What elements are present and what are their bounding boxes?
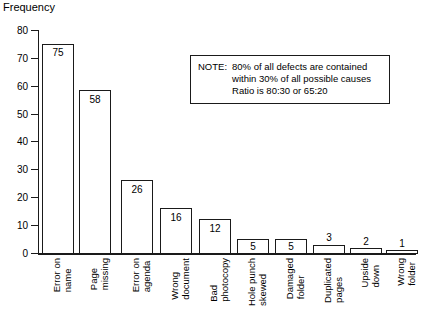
y-axis-title: Frequency: [3, 1, 55, 14]
pareto-note-box: NOTE: 80% of all defects are contained w…: [190, 55, 390, 104]
note-text: 80% of all defects are contained within …: [232, 61, 382, 97]
bar-7[interactable]: [313, 245, 345, 254]
category-label-9-line-0: Wrong: [396, 258, 407, 286]
y-tick-50: [31, 114, 39, 115]
category-label-6-line-0: Damaged: [285, 258, 296, 299]
category-label-9: Wrong folder: [396, 258, 417, 286]
y-tick-label-0: 0: [2, 249, 28, 259]
category-label-6: Damaged folder: [285, 258, 306, 299]
y-tick-20: [31, 197, 39, 198]
y-tick-80: [31, 30, 39, 31]
y-tick-label-60: 60: [2, 82, 28, 92]
note-line-1: within 30% of all possible causes: [232, 73, 382, 85]
y-tick-60: [31, 86, 39, 87]
bar-value-8: 2: [350, 237, 382, 247]
category-label-9-line-1: folder: [407, 258, 418, 286]
bar-value-6: 5: [275, 242, 307, 252]
y-tick-70: [31, 58, 39, 59]
category-label-3-line-0: Wrong: [170, 258, 181, 300]
y-tick-label-80: 80: [2, 26, 28, 36]
bar-value-1: 58: [79, 95, 111, 105]
category-label-2: Error on agenda: [131, 258, 152, 292]
bar-value-0: 75: [42, 48, 74, 58]
category-label-2-line-1: agenda: [142, 258, 153, 292]
category-label-8-line-0: Upside: [360, 258, 371, 288]
y-axis-line: [38, 30, 39, 254]
y-tick-label-40: 40: [2, 137, 28, 147]
category-label-2-line-0: Error on: [131, 258, 142, 292]
category-label-7-line-0: Duplicated: [323, 258, 334, 303]
category-label-1: Page missing: [89, 258, 110, 290]
bar-value-3: 16: [160, 213, 192, 223]
y-tick-label-70: 70: [2, 54, 28, 64]
category-label-1-line-1: missing: [100, 258, 111, 290]
y-tick-label-50: 50: [2, 110, 28, 120]
category-label-1-line-0: Page: [89, 258, 100, 290]
bar-value-7: 3: [313, 233, 345, 243]
y-tick-label-10: 10: [2, 221, 28, 231]
bar-value-4: 12: [199, 224, 231, 234]
category-label-0: Error on name: [52, 258, 73, 292]
bar-value-2: 26: [121, 185, 153, 195]
bar-9[interactable]: [386, 250, 418, 254]
category-label-7-line-1: pages: [334, 258, 345, 303]
y-tick-10: [31, 225, 39, 226]
category-label-8-line-1: down: [371, 258, 382, 288]
category-label-4: Bad photocopy: [209, 258, 230, 302]
note-label: NOTE:: [198, 61, 232, 97]
y-tick-label-30: 30: [2, 165, 28, 175]
category-label-3: Wrong document: [170, 258, 191, 300]
note-line-2: Ratio is 80:30 or 65:20: [232, 85, 382, 97]
bar-8[interactable]: [350, 248, 382, 254]
y-tick-30: [31, 169, 39, 170]
bar-value-9: 1: [386, 239, 418, 249]
bar-0[interactable]: [42, 44, 74, 255]
category-label-8: Upside down: [360, 258, 381, 288]
pareto-chart: Frequency 0 10 20 30 40 50 60 70 80 75 5…: [0, 0, 423, 322]
y-tick-0: [31, 253, 39, 254]
note-line-0: 80% of all defects are contained: [232, 61, 382, 73]
y-tick-40: [31, 141, 39, 142]
bar-1[interactable]: [79, 90, 111, 254]
category-label-4-line-1: photocopy: [220, 258, 231, 302]
category-label-0-line-1: name: [63, 258, 74, 292]
category-label-4-line-0: Bad: [209, 258, 220, 302]
category-label-5: Hole punch skewed: [247, 258, 268, 306]
category-label-3-line-1: document: [181, 258, 192, 300]
category-label-6-line-1: folder: [296, 258, 307, 299]
bar-value-5: 5: [237, 242, 269, 252]
category-label-5-line-1: skewed: [258, 258, 269, 306]
category-label-7: Duplicated pages: [323, 258, 344, 303]
y-tick-label-20: 20: [2, 193, 28, 203]
category-label-5-line-0: Hole punch: [247, 258, 258, 306]
category-label-0-line-0: Error on: [52, 258, 63, 292]
